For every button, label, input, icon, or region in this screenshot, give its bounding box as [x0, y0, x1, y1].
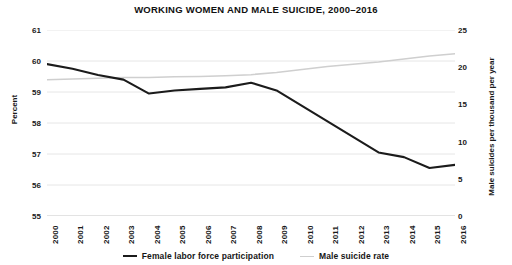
y-axis-right-ticks: 0510152025 — [455, 30, 485, 216]
chart-title: WORKING WOMEN AND MALE SUICIDE, 2000–201… — [0, 4, 512, 15]
x-axis-tick-label: 2006 — [204, 225, 213, 244]
y-axis-left-tick-label: 60 — [32, 57, 41, 66]
plot-area — [47, 30, 455, 216]
legend-item-male-suicide-rate: Male suicide rate — [300, 251, 389, 261]
x-axis-tick-label: 2012 — [357, 225, 366, 244]
gridlines — [47, 30, 455, 216]
y-axis-right-tick-label: 5 — [458, 174, 462, 183]
x-axis-tick-label: 2002 — [102, 225, 111, 244]
y-axis-left-title: Percent — [10, 80, 19, 140]
y-axis-left-tick-label: 57 — [32, 150, 41, 159]
y-axis-left-tick-label: 61 — [32, 26, 41, 35]
x-axis-tick-label: 2010 — [306, 225, 315, 244]
x-axis-tick-label: 2007 — [229, 225, 238, 244]
x-axis-tick-label: 2004 — [153, 225, 162, 244]
legend-label-female-labor-force: Female labor force participation — [142, 251, 274, 261]
y-axis-right-tick-label: 10 — [458, 137, 467, 146]
legend-item-female-labor-force: Female labor force participation — [123, 251, 274, 261]
x-axis-tick-label: 2009 — [280, 225, 289, 244]
y-axis-left-tick-label: 58 — [32, 119, 41, 128]
y-axis-right-tick-label: 20 — [458, 63, 467, 72]
x-axis-tick-label: 2001 — [76, 225, 85, 244]
legend-label-male-suicide-rate: Male suicide rate — [319, 251, 389, 261]
x-axis-tick-label: 2013 — [382, 225, 391, 244]
x-axis-tick-label: 2000 — [51, 225, 60, 244]
legend-line-icon-light — [300, 256, 314, 257]
x-axis-tick-label: 2003 — [127, 225, 136, 244]
x-axis-tick-label: 2015 — [433, 225, 442, 244]
y-axis-left-tick-label: 56 — [32, 181, 41, 190]
x-axis-tick-label: 2014 — [408, 225, 417, 244]
y-axis-right-title: Male suicides per thousand per year — [487, 32, 496, 222]
y-axis-left-ticks: 55565758596061 — [0, 30, 44, 216]
plot-svg — [47, 30, 455, 216]
legend-line-icon-dark — [123, 255, 137, 257]
y-axis-left-tick-label: 55 — [32, 212, 41, 221]
x-axis-tick-label: 2011 — [331, 226, 340, 244]
x-axis-ticks: 2000200120022003200420052006200720082009… — [47, 218, 455, 250]
x-axis-tick-label: 2005 — [178, 225, 187, 244]
y-axis-left-tick-label: 59 — [32, 88, 41, 97]
x-axis-tick-label: 2008 — [255, 225, 264, 244]
y-axis-right-tick-label: 25 — [458, 26, 467, 35]
chart-legend: Female labor force participation Male su… — [0, 248, 512, 264]
y-axis-right-tick-label: 15 — [458, 100, 467, 109]
x-axis-tick-label: 2016 — [459, 225, 468, 244]
series-line-female-labor-force — [47, 64, 455, 168]
y-axis-right-tick-label: 0 — [458, 212, 462, 221]
chart-figure: WORKING WOMEN AND MALE SUICIDE, 2000–201… — [0, 0, 512, 265]
